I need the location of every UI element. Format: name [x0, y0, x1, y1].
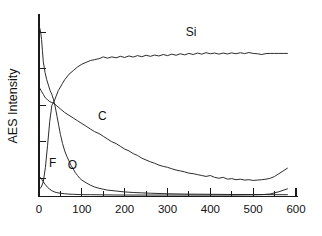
- x-tick-label: 400: [201, 203, 220, 215]
- y-axis-title: AES Intensity: [6, 68, 20, 144]
- x-tick-label: 600: [286, 203, 305, 215]
- series-label-f: F: [49, 156, 56, 170]
- series-annotations-group: SiCOF: [49, 25, 196, 172]
- x-tick-label: 200: [115, 203, 134, 215]
- series-label-o: O: [68, 158, 77, 172]
- x-tick-label: 500: [244, 203, 263, 215]
- x-tick-label: 300: [158, 203, 177, 215]
- series-label-c: C: [98, 109, 107, 123]
- x-tick-label: 100: [72, 203, 91, 215]
- series-line-f: [39, 176, 287, 195]
- x-axis-tick-labels: 0100200300400500600: [36, 203, 306, 215]
- series-label-si: Si: [186, 25, 197, 39]
- chart-canvas: 0100200300400500600 SiCOF AES Intensity: [0, 0, 322, 236]
- aes-depth-profile-figure: 0100200300400500600 SiCOF AES Intensity: [0, 0, 322, 236]
- x-tick-label: 0: [36, 203, 42, 215]
